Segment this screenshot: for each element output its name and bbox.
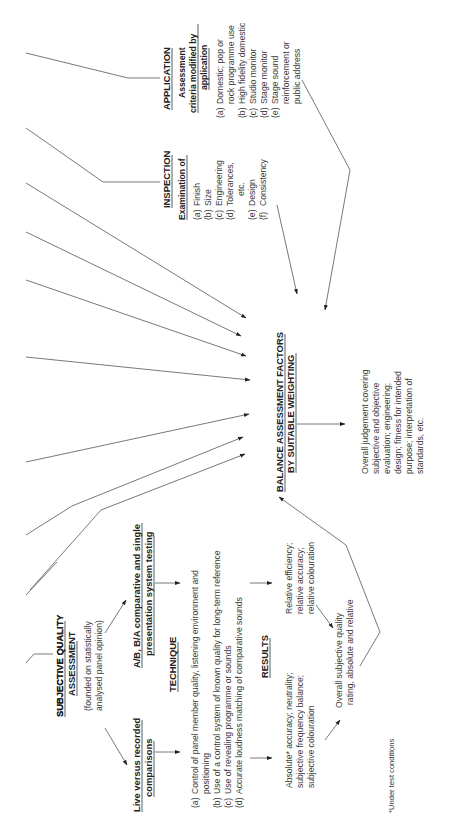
svg-text:A/B, B/A comparative and singl: A/B, B/A comparative and single: [131, 524, 142, 668]
svg-text:rock programme use: rock programme use: [226, 25, 236, 104]
overall-judgement-block: Overall judgement covering subjective an…: [360, 369, 425, 474]
svg-text:(b): (b): [212, 797, 222, 808]
svg-text:Design: Design: [247, 179, 257, 206]
inspection-subheading: Examination of: [177, 158, 187, 220]
svg-text:Use of revealing programme or: Use of revealing programme or sounds: [223, 645, 233, 794]
svg-text:Overall judgement covering: Overall judgement covering: [360, 369, 370, 474]
svg-text:reinforcement or: reinforcement or: [281, 41, 291, 104]
overall-subjective-rating: Overall subjective quality rating, absol…: [334, 599, 355, 708]
relative-results: Relative efficiency; relative accuracy; …: [284, 542, 316, 614]
svg-text:Size: Size: [203, 189, 213, 206]
svg-text:subjective frequency balance;: subjective frequency balance;: [295, 675, 305, 788]
svg-text:Engineering: Engineering: [214, 160, 224, 206]
assessment-flow-diagram: APPLICATION Assessment criteria modified…: [0, 0, 450, 825]
application-sub-1: criteria modified by: [188, 34, 198, 113]
svg-text:(d): (d): [259, 107, 269, 118]
live-vs-recorded-block: Live versus recorded comparisons: [131, 717, 154, 812]
svg-text:Stage sound: Stage sound: [270, 56, 280, 104]
svg-text:(a): (a): [192, 209, 202, 220]
svg-text:(e): (e): [247, 209, 257, 220]
application-sub-0: Assessment: [177, 47, 187, 98]
svg-text:(d): (d): [234, 797, 244, 808]
inspection-block: INSPECTION Examination of (a) Finish (b)…: [161, 150, 268, 220]
svg-text:(c): (c): [223, 798, 233, 808]
subjective-heading-1: ASSESSMENT: [66, 631, 77, 696]
svg-text:public address: public address: [292, 49, 302, 104]
svg-text:SUBJECTIVE QUALITY: SUBJECTIVE QUALITY: [54, 614, 65, 717]
svg-text:(f): (f): [258, 212, 268, 220]
svg-text:Live versus recorded: Live versus recorded: [131, 717, 142, 812]
subjective-block: SUBJECTIVE QUALITY SUBJECTIVE QUALITY AS…: [54, 614, 104, 717]
svg-text:Overall subjective quality: Overall subjective quality: [334, 612, 344, 708]
technique-heading: TECHNIQUE: [167, 637, 178, 692]
svg-text:Finish: Finish: [192, 183, 202, 206]
svg-text:subjective and objective: subjective and objective: [371, 383, 381, 474]
absolute-results: Absolute* accuracy; neutrality; subjecti…: [284, 672, 316, 788]
application-items: (a) Domestic; pop or rock programme use …: [215, 22, 302, 118]
inspection-items: (a) Finish (b) Size (c) Engineering (d) …: [192, 158, 268, 220]
svg-text:*Under test conditions: *Under test conditions: [387, 739, 396, 813]
application-heading: APPLICATION: [161, 47, 172, 110]
svg-text:relative colouration: relative colouration: [306, 542, 316, 614]
svg-text:Stage monitor: Stage monitor: [259, 50, 269, 104]
svg-text:subjective colouration: subjective colouration: [306, 705, 316, 788]
svg-text:Relative efficiency;: Relative efficiency;: [284, 543, 294, 615]
svg-text:etc.: etc.: [236, 182, 246, 196]
inspection-heading: INSPECTION: [161, 150, 172, 208]
svg-text:Domestic; pop or: Domestic; pop or: [215, 39, 225, 104]
ab-testing-block: A/B, B/A comparative and single presenta…: [131, 523, 154, 668]
svg-text:positioning: positioning: [201, 753, 211, 794]
svg-text:purpose; interpretation of: purpose; interpretation of: [404, 378, 414, 474]
connector-lines: [26, 53, 380, 666]
svg-text:Accurate loudness matching of: Accurate loudness matching of comparativ…: [234, 597, 244, 794]
application-sub-2: application: [199, 45, 209, 90]
svg-text:Absolute* accuracy; neutrality: Absolute* accuracy; neutrality;: [284, 672, 294, 788]
svg-text:Studio monitor: Studio monitor: [248, 48, 258, 104]
svg-text:(founded on statistically: (founded on statistically: [83, 620, 93, 711]
application-block: APPLICATION Assessment criteria modified…: [161, 22, 302, 118]
technique-items: (a) Control of panel member quality, lis…: [190, 550, 244, 808]
svg-text:presentation system testing: presentation system testing: [143, 531, 154, 656]
svg-text:(b): (b): [203, 209, 213, 220]
svg-text:standards, etc.: standards, etc.: [415, 418, 425, 474]
footnote: *Under test conditions: [387, 739, 396, 813]
svg-text:design; fitness for intended: design; fitness for intended: [393, 371, 403, 474]
svg-text:TECHNIQUE: TECHNIQUE: [167, 637, 178, 692]
svg-text:Tolerances,: Tolerances,: [225, 162, 235, 206]
balance-line-1: BY SUITABLE WEIGHTING: [285, 355, 296, 473]
svg-text:Use of a control system of kno: Use of a control system of known quality…: [212, 550, 222, 794]
svg-text:High fidelity domestic: High fidelity domestic: [237, 22, 247, 104]
svg-text:(e): (e): [270, 107, 280, 118]
svg-text:(c): (c): [214, 210, 224, 220]
results-heading: RESULTS: [259, 635, 270, 678]
svg-text:comparisons: comparisons: [143, 739, 154, 797]
svg-text:(b): (b): [237, 107, 247, 118]
svg-text:evaluation; engineering;: evaluation; engineering;: [382, 383, 392, 474]
balance-line-0: BALANCE ASSESSMENT FACTORS: [274, 332, 285, 492]
svg-text:(d): (d): [225, 209, 235, 220]
svg-text:RESULTS: RESULTS: [259, 635, 270, 678]
balance-block: BALANCE ASSESSMENT FACTORS BY SUITABLE W…: [274, 332, 296, 492]
svg-text:(a): (a): [215, 107, 225, 118]
svg-text:Control of panel member qualit: Control of panel member quality, listeni…: [190, 570, 200, 794]
svg-text:(c): (c): [248, 108, 258, 118]
svg-text:rating, absolute and relative: rating, absolute and relative: [345, 599, 355, 705]
svg-text:Consistency: Consistency: [258, 158, 268, 206]
svg-text:(a): (a): [190, 797, 200, 808]
svg-text:relative accuracy;: relative accuracy;: [295, 547, 305, 614]
svg-text:analysed panel opinion): analysed panel opinion): [94, 620, 104, 711]
